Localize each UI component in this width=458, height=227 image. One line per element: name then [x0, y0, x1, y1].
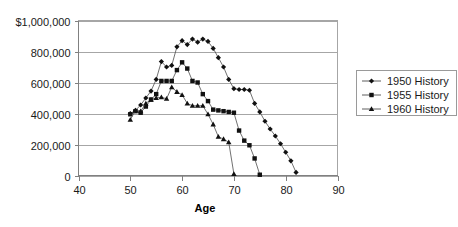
data-point-marker	[226, 77, 231, 82]
data-point-marker	[170, 79, 174, 83]
data-point-marker	[185, 66, 189, 70]
data-point-marker	[221, 109, 225, 113]
y-tick-label: 200,000	[31, 140, 71, 152]
data-point-marker	[159, 94, 164, 99]
data-point-marker	[185, 101, 190, 106]
y-axis: 0200,000400,000600,000800,000$1,000,000	[15, 16, 78, 183]
data-point-marker	[180, 60, 184, 64]
data-point-marker	[236, 87, 241, 92]
series-line	[130, 62, 259, 174]
data-point-marker	[200, 37, 205, 42]
data-point-marker	[211, 107, 215, 111]
data-point-marker	[288, 158, 293, 163]
data-point-marker	[293, 170, 298, 175]
data-point-marker	[154, 77, 159, 82]
x-tick-label: 60	[176, 184, 188, 196]
data-point-marker	[231, 86, 236, 91]
data-point-marker	[242, 138, 246, 142]
data-point-marker	[195, 40, 200, 45]
x-tick-label: 40	[73, 184, 85, 196]
data-point-marker	[252, 101, 257, 106]
chart-container: 0200,000400,000600,000800,000$1,000,000 …	[0, 0, 458, 227]
data-point-marker	[216, 55, 221, 60]
data-point-marker	[175, 68, 179, 72]
data-point-marker	[216, 108, 220, 112]
data-point-marker	[143, 101, 148, 106]
data-point-marker	[283, 150, 288, 155]
data-point-marker	[205, 112, 210, 117]
data-point-marker	[190, 79, 194, 83]
data-point-marker	[159, 79, 163, 83]
data-point-marker	[226, 139, 231, 144]
data-point-marker	[128, 117, 133, 122]
data-point-marker	[262, 119, 267, 124]
data-point-marker	[210, 122, 215, 127]
data-point-marker	[232, 111, 236, 115]
y-tick-label: 400,000	[31, 109, 71, 121]
x-tick-label: 50	[124, 184, 136, 196]
y-tick-label: 0	[64, 171, 70, 183]
data-point-marker	[179, 92, 184, 97]
data-point-marker	[221, 136, 226, 141]
series-line	[130, 39, 296, 172]
series-square	[128, 60, 262, 177]
legend-marker-square-icon	[369, 93, 373, 97]
data-point-marker	[227, 110, 231, 114]
data-point-marker	[247, 88, 252, 93]
data-point-marker	[221, 64, 226, 69]
data-point-marker	[195, 80, 199, 84]
line-chart: 0200,000400,000600,000800,000$1,000,000 …	[0, 0, 458, 227]
data-point-marker	[252, 156, 256, 160]
data-point-marker	[216, 134, 221, 139]
data-point-marker	[231, 171, 236, 176]
y-tick-label: 600,000	[31, 78, 71, 90]
x-axis-title: Age	[195, 202, 216, 214]
legend-item-label: 1960 History	[387, 103, 449, 115]
x-axis: 405060708090	[73, 176, 344, 196]
series-diamond	[128, 37, 299, 176]
x-tick-label: 90	[332, 184, 344, 196]
y-tick-label: 800,000	[31, 47, 71, 59]
data-point-marker	[164, 79, 168, 83]
y-tick-label: $1,000,000	[15, 16, 70, 28]
series-lines	[128, 37, 299, 177]
data-point-marker	[201, 92, 205, 96]
legend-item-label: 1950 History	[387, 75, 449, 87]
x-tick-label: 70	[228, 184, 240, 196]
legend-item-label: 1955 History	[387, 89, 449, 101]
data-point-marker	[247, 143, 251, 147]
data-point-marker	[169, 84, 174, 89]
data-point-marker	[169, 63, 174, 68]
data-point-marker	[237, 128, 241, 132]
data-point-marker	[258, 173, 262, 177]
data-point-marker	[128, 112, 132, 116]
x-tick-label: 80	[280, 184, 292, 196]
data-point-marker	[242, 87, 247, 92]
legend: 1950 History1955 History1960 History	[357, 71, 457, 116]
data-point-marker	[257, 109, 262, 114]
data-point-marker	[206, 99, 210, 103]
